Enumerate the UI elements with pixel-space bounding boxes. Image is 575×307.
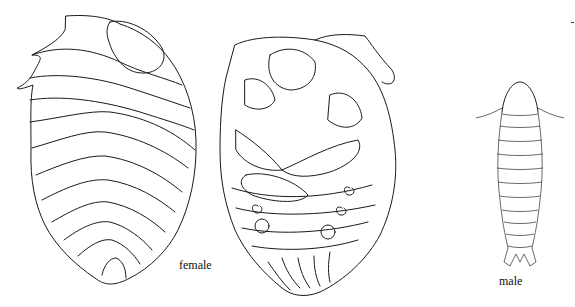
male-segment: [502, 114, 538, 116]
female-pygidium: [102, 258, 126, 278]
female-segment: [52, 202, 165, 232]
female-segment: [36, 156, 182, 192]
female-segment: [32, 132, 188, 168]
male-label: male: [499, 274, 522, 289]
female-segment: [30, 112, 195, 150]
male-segment: [500, 126, 540, 128]
female-ventral-lobe: [236, 130, 282, 170]
illustration-canvas: [0, 0, 575, 307]
female-segment: [64, 222, 152, 250]
male-segment: [504, 222, 536, 224]
male-segment: [498, 182, 542, 184]
female-dorsal-outline: [17, 15, 196, 284]
male-segment: [500, 196, 540, 198]
male-segment: [497, 154, 543, 156]
female-ventral-lobe: [328, 93, 362, 127]
male-drawing: [476, 82, 564, 266]
female-segment: [30, 98, 194, 130]
female-segment: [30, 76, 190, 108]
male-segment: [508, 246, 532, 248]
male-segment: [506, 234, 534, 236]
female-dorsal-drawing: [17, 15, 196, 284]
female-ventral-lobe: [245, 79, 275, 109]
female-ventral-segment: [242, 222, 368, 232]
male-body-outline: [498, 112, 542, 248]
male-segment: [497, 168, 543, 170]
female-label: female: [179, 258, 212, 273]
female-ventral-lobe: [315, 35, 394, 85]
male-antenna-right: [538, 108, 564, 118]
female-ventral-outline: [220, 37, 396, 295]
female-ventral-lobe: [269, 49, 316, 90]
male-head: [502, 82, 538, 112]
female-ventral-segment: [252, 240, 358, 249]
stray-mark: [571, 22, 574, 23]
male-tail-appendages: [504, 248, 536, 266]
female-ventral-lobe: [282, 140, 360, 176]
female-ventral-drawing: [220, 35, 396, 296]
female-segment: [78, 240, 140, 264]
female-ventral-lobe: [241, 174, 308, 202]
male-segment: [502, 210, 538, 212]
female-head-shield: [107, 21, 164, 73]
male-antenna-left: [476, 108, 502, 118]
female-segment: [42, 180, 175, 212]
female-ventral-spot: [321, 225, 335, 239]
male-segment: [498, 140, 542, 142]
